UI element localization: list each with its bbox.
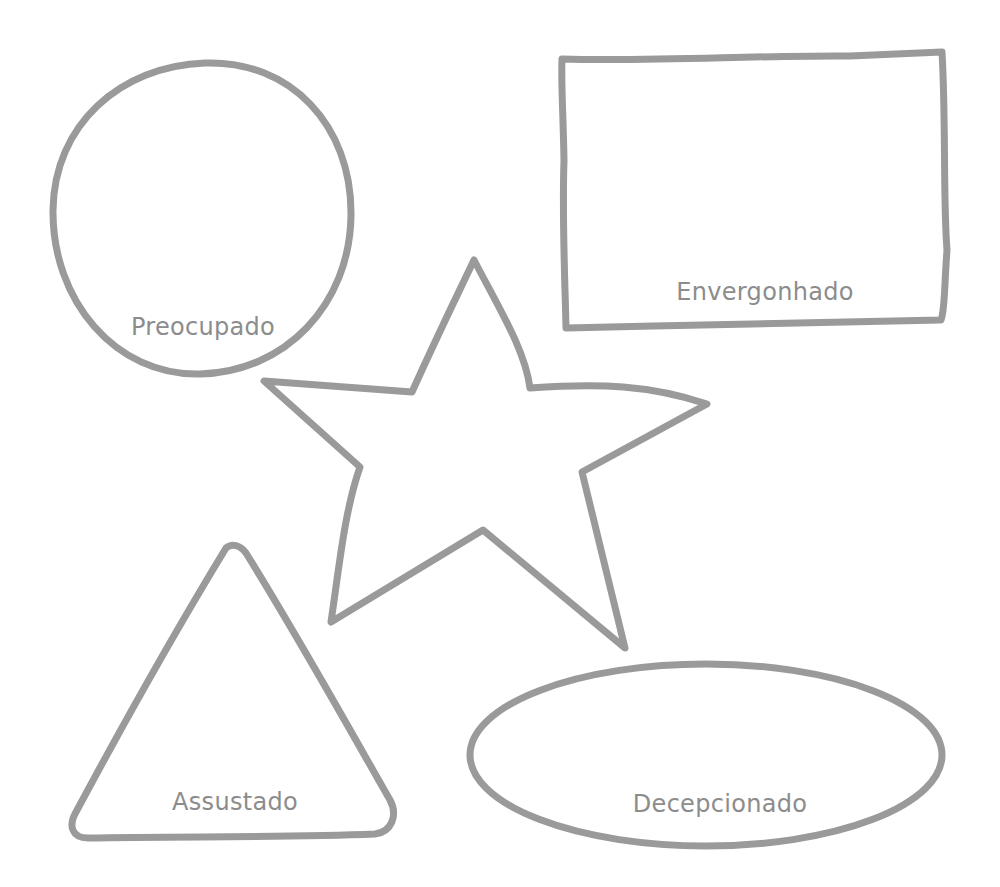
label-assustado: Assustado	[172, 788, 298, 816]
shapes-canvas	[0, 0, 1000, 887]
ellipse-shape	[470, 664, 942, 846]
label-decepcionado: Decepcionado	[633, 790, 807, 818]
label-envergonhado: Envergonhado	[676, 278, 853, 306]
label-preocupado: Preocupado	[131, 313, 275, 341]
star-shape	[264, 260, 707, 648]
